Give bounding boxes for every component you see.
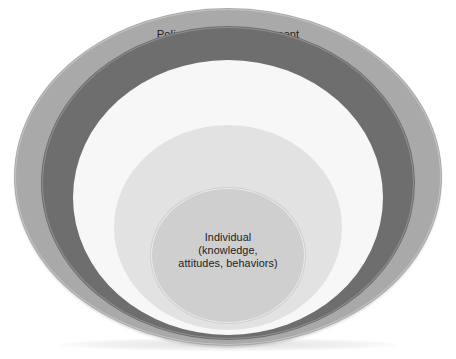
socio-ecological-model-diagram: Policy/enabling environment (national, s… <box>0 0 456 359</box>
ellipse-layer-individual: Individual (knowledge, attitudes, behavi… <box>150 187 306 324</box>
layer-label-individual: Individual (knowledge, attitudes, behavi… <box>150 231 306 271</box>
